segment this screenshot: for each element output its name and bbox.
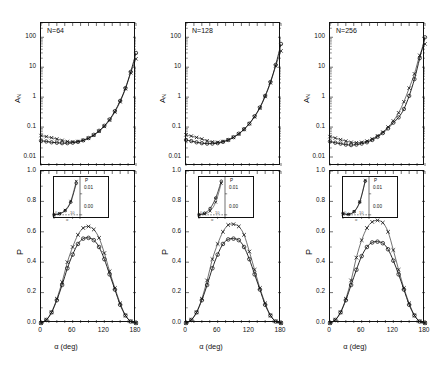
inset-ytick-low: 0.00 — [229, 205, 238, 210]
top-ytick-0p1: 0.1 — [151, 123, 181, 129]
panel-column-0: N=64 AN 1001010.10.01 P 0.01 0.00 0 10 α… — [0, 0, 144, 372]
top-ytick-100: 100 — [6, 33, 36, 39]
bottom-y-axis-title: P — [15, 249, 25, 255]
inset-x-axis-title: α — [355, 218, 357, 222]
inset-ytick-high: 0.01 — [229, 186, 238, 191]
bottom-xtick-0: 0 — [327, 327, 331, 334]
inset-x-axis-title: α — [211, 218, 213, 222]
inset-plot-n256: P 0.01 0.00 0 10 α — [342, 176, 398, 218]
top-ytick-100: 100 — [151, 33, 181, 39]
bottom-xtick-180: 180 — [418, 327, 429, 334]
inset-xtick-0: 0 — [55, 211, 57, 215]
bottom-plot-n128: P 0.01 0.00 0 10 α — [185, 170, 280, 322]
top-ytick-1: 1 — [295, 93, 325, 99]
panel-label-n64: N=64 — [47, 27, 64, 34]
bottom-ytick-0p6: 0.6 — [151, 228, 181, 234]
bottom-ytick-1p0: 1.0 — [295, 167, 325, 173]
bottom-ytick-1p0: 1.0 — [6, 167, 36, 173]
top-plot-n256 — [329, 22, 424, 165]
bottom-ytick-0p4: 0.4 — [151, 258, 181, 264]
bottom-ytick-1p0: 1.0 — [151, 167, 181, 173]
inset-ytick-low: 0.00 — [373, 205, 382, 210]
panel-column-1: N=128 AN 1001010.10.01 P 0.01 0.00 0 10 … — [145, 0, 289, 372]
bottom-ytick-0p4: 0.4 — [295, 258, 325, 264]
inset-ytick-low: 0.00 — [84, 205, 93, 210]
bottom-ytick-0p4: 0.4 — [6, 258, 36, 264]
top-ytick-1: 1 — [6, 93, 36, 99]
bottom-y-axis-title: P — [304, 249, 314, 255]
top-plot-n64 — [40, 22, 135, 165]
bottom-xtick-180: 180 — [274, 327, 285, 334]
figure-root: N=64 AN 1001010.10.01 P 0.01 0.00 0 10 α… — [0, 0, 433, 372]
bottom-xtick-120: 120 — [98, 327, 109, 334]
bottom-ytick-0p0: 0.0 — [151, 319, 181, 325]
top-ytick-10: 10 — [151, 63, 181, 69]
bottom-xtick-180: 180 — [129, 327, 140, 334]
bottom-ytick-0p2: 0.2 — [6, 288, 36, 294]
inset-xtick-0: 0 — [200, 211, 202, 215]
inset-y-axis-title: P — [230, 179, 233, 184]
top-ytick-1: 1 — [151, 93, 181, 99]
inset-xtick-10: 10 — [70, 211, 74, 215]
panel-label-n256: N=256 — [336, 27, 357, 34]
inset-ytick-high: 0.01 — [84, 186, 93, 191]
bottom-ytick-0p8: 0.8 — [295, 197, 325, 203]
panel-column-2: N=256 AN 1001010.10.01 P 0.01 0.00 0 10 … — [289, 0, 433, 372]
top-ytick-0p01: 0.01 — [295, 153, 325, 159]
bottom-ytick-0p2: 0.2 — [151, 288, 181, 294]
bottom-xtick-120: 120 — [387, 327, 398, 334]
top-plot-n128 — [185, 22, 280, 165]
bottom-x-axis-title: α (deg) — [54, 342, 78, 351]
bottom-y-axis-title: P — [160, 249, 170, 255]
bottom-x-axis-title: α (deg) — [199, 342, 223, 351]
bottom-ytick-0p6: 0.6 — [6, 228, 36, 234]
bottom-ytick-0p6: 0.6 — [295, 228, 325, 234]
top-ytick-100: 100 — [295, 33, 325, 39]
inset-xtick-0: 0 — [344, 211, 346, 215]
inset-plot-n64: P 0.01 0.00 0 10 α — [53, 176, 109, 218]
bottom-ytick-0p2: 0.2 — [295, 288, 325, 294]
top-ytick-10: 10 — [6, 63, 36, 69]
bottom-ytick-0p0: 0.0 — [6, 319, 36, 325]
inset-y-axis-title: P — [374, 179, 377, 184]
top-ytick-10: 10 — [295, 63, 325, 69]
top-ytick-0p1: 0.1 — [295, 123, 325, 129]
inset-ytick-high: 0.01 — [373, 186, 382, 191]
bottom-xtick-60: 60 — [68, 327, 75, 334]
bottom-xtick-60: 60 — [213, 327, 220, 334]
top-ytick-0p1: 0.1 — [6, 123, 36, 129]
inset-x-axis-title: α — [66, 218, 68, 222]
bottom-xtick-120: 120 — [243, 327, 254, 334]
inset-xtick-10: 10 — [359, 211, 363, 215]
bottom-xtick-0: 0 — [38, 327, 42, 334]
inset-plot-n128: P 0.01 0.00 0 10 α — [198, 176, 254, 218]
top-ytick-0p01: 0.01 — [151, 153, 181, 159]
bottom-ytick-0p8: 0.8 — [151, 197, 181, 203]
bottom-ytick-0p8: 0.8 — [6, 197, 36, 203]
top-ytick-0p01: 0.01 — [6, 153, 36, 159]
panel-label-n128: N=128 — [192, 27, 213, 34]
bottom-x-axis-title: α (deg) — [343, 342, 367, 351]
bottom-plot-n256: P 0.01 0.00 0 10 α — [329, 170, 424, 322]
bottom-xtick-60: 60 — [357, 327, 364, 334]
inset-y-axis-title: P — [85, 179, 88, 184]
bottom-xtick-0: 0 — [183, 327, 187, 334]
bottom-ytick-0p0: 0.0 — [295, 319, 325, 325]
inset-xtick-10: 10 — [215, 211, 219, 215]
bottom-plot-n64: P 0.01 0.00 0 10 α — [40, 170, 135, 322]
